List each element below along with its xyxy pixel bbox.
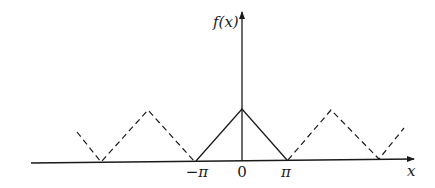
x-axis bbox=[31, 159, 414, 163]
y-axis-label: f(x) bbox=[212, 13, 239, 31]
dashed-extension-right bbox=[288, 110, 404, 160]
x-axis-label: x bbox=[407, 162, 416, 180]
tick-label-zero: 0 bbox=[237, 163, 247, 181]
tick-label-neg-pi: −π bbox=[186, 163, 210, 181]
dashed-extension-left bbox=[77, 110, 194, 162]
triangle-wave-diagram: f(x) x −π 0 π bbox=[0, 0, 435, 188]
tick-label-pos-pi: π bbox=[280, 163, 292, 181]
